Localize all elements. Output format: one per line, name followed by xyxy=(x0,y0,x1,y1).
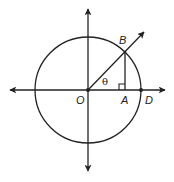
unit-circle-diagram: B O A D θ xyxy=(0,0,174,182)
right-angle-marker xyxy=(119,84,125,90)
label-D: D xyxy=(145,94,153,106)
label-A: A xyxy=(120,94,128,106)
label-B: B xyxy=(119,34,126,46)
point-B xyxy=(124,51,126,53)
label-theta: θ xyxy=(102,76,108,87)
ray-OB xyxy=(88,32,144,90)
point-D xyxy=(139,88,143,92)
label-O: O xyxy=(76,94,85,106)
point-O xyxy=(86,88,90,92)
